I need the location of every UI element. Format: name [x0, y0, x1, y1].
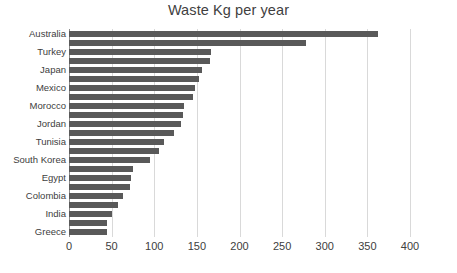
- bar-row: [69, 175, 410, 181]
- bar-row: [69, 103, 410, 109]
- bar: [69, 139, 164, 145]
- waste-bar-chart: Waste Kg per year AustraliaTurkeyJapanMe…: [0, 0, 457, 273]
- plot-area: [69, 29, 410, 237]
- bar-row: [69, 211, 410, 217]
- bar-row: [69, 157, 410, 163]
- bar: [69, 67, 202, 73]
- x-tick-label-200: 200: [230, 240, 248, 252]
- bar: [69, 85, 195, 91]
- gridline-400: [410, 29, 411, 237]
- bar: [69, 130, 174, 136]
- bar: [69, 148, 159, 154]
- bar: [69, 202, 118, 208]
- bar-row: [69, 76, 410, 82]
- bar: [69, 175, 131, 181]
- bar: [69, 49, 211, 55]
- category-label-tunisia: Tunisia: [0, 137, 66, 147]
- x-tick-label-400: 400: [401, 240, 419, 252]
- bar-row: [69, 130, 410, 136]
- bar: [69, 193, 123, 199]
- bar-row: [69, 220, 410, 226]
- category-label-egypt: Egypt: [0, 173, 66, 183]
- bar: [69, 184, 130, 190]
- category-label-greece: Greece: [0, 227, 66, 237]
- category-label-colombia: Colombia: [0, 191, 66, 201]
- bar-row: [69, 202, 410, 208]
- category-label-south-korea: South Korea: [0, 155, 66, 165]
- bar: [69, 103, 184, 109]
- bar-row: [69, 112, 410, 118]
- bar-row: [69, 85, 410, 91]
- bar: [69, 121, 181, 127]
- bar: [69, 94, 193, 100]
- bar: [69, 211, 112, 217]
- category-label-morocco: Morocco: [0, 101, 66, 111]
- category-label-turkey: Turkey: [0, 47, 66, 57]
- category-label-mexico: Mexico: [0, 83, 66, 93]
- bar-row: [69, 31, 410, 37]
- x-tick-label-250: 250: [273, 240, 291, 252]
- category-axis-labels: AustraliaTurkeyJapanMexicoMoroccoJordanT…: [0, 29, 66, 237]
- bar: [69, 76, 199, 82]
- bar: [69, 40, 306, 46]
- bar-row: [69, 49, 410, 55]
- x-tick-label-150: 150: [188, 240, 206, 252]
- value-axis-labels: 050100150200250300350400: [0, 240, 457, 260]
- bar: [69, 220, 107, 226]
- category-label-india: India: [0, 209, 66, 219]
- bar-row: [69, 121, 410, 127]
- bar-row: [69, 166, 410, 172]
- bar: [69, 112, 183, 118]
- bar-row: [69, 193, 410, 199]
- x-tick-label-100: 100: [145, 240, 163, 252]
- x-tick-label-350: 350: [358, 240, 376, 252]
- bar-row: [69, 40, 410, 46]
- bar-row: [69, 229, 410, 235]
- bar: [69, 229, 107, 235]
- bar-row: [69, 67, 410, 73]
- x-tick-label-50: 50: [106, 240, 118, 252]
- x-tick-label-300: 300: [316, 240, 334, 252]
- category-label-jordan: Jordan: [0, 119, 66, 129]
- bar-row: [69, 139, 410, 145]
- bar-row: [69, 94, 410, 100]
- bar-row: [69, 148, 410, 154]
- category-label-japan: Japan: [0, 65, 66, 75]
- bar: [69, 166, 133, 172]
- bar: [69, 157, 150, 163]
- bar-row: [69, 58, 410, 64]
- bar-row: [69, 184, 410, 190]
- bar: [69, 58, 210, 64]
- x-tick-label-0: 0: [66, 240, 72, 252]
- chart-title: Waste Kg per year: [0, 2, 457, 18]
- bar: [69, 31, 378, 37]
- category-label-australia: Australia: [0, 29, 66, 39]
